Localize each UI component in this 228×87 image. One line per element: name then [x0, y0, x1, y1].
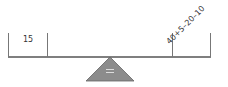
- left-pan-label: 15: [8, 36, 48, 44]
- balance-scale-diagram: 15 40+5–20–10: [0, 0, 228, 87]
